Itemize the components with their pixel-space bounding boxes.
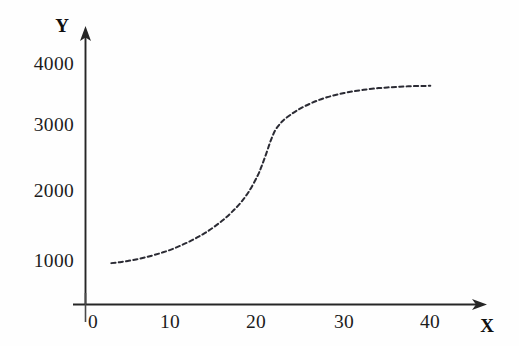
y-axis-group [80, 26, 91, 305]
x-tick-label-20: 20 [246, 311, 266, 332]
x-tick-label-30: 30 [334, 311, 354, 332]
y-tick-label-3000: 3000 [34, 114, 74, 135]
y-axis-title: Y [55, 15, 69, 36]
chart-plot-area: 4000 3000 2000 1000 0 10 20 30 40 Y X [0, 0, 519, 346]
y-tick-label-1000: 1000 [34, 250, 74, 271]
y-tick-label-4000: 4000 [34, 53, 74, 74]
x-axis-title: X [480, 315, 494, 336]
y-tick-label-2000: 2000 [34, 180, 74, 201]
x-tick-label-40: 40 [420, 311, 440, 332]
x-tick-label-0: 0 [88, 311, 98, 332]
chart-figure: 4000 3000 2000 1000 0 10 20 30 40 Y X [0, 0, 519, 346]
x-tick-label-10: 10 [160, 311, 180, 332]
data-series-curve [111, 86, 430, 263]
